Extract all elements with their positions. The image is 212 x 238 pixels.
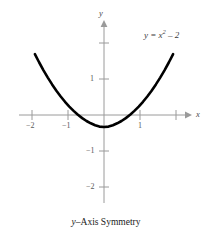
y-axis-label: y xyxy=(99,9,103,18)
x-tick-label-neg2: −2 xyxy=(26,122,35,130)
figure-caption: y–Axis Symmetry xyxy=(0,218,212,228)
x-axis-label: x xyxy=(196,110,200,119)
curve-equation-lead: y = x xyxy=(144,30,163,40)
caption-rest: –Axis Symmetry xyxy=(76,217,141,227)
y-tick-label-1: 1 xyxy=(90,75,94,83)
y-axis xyxy=(101,20,108,203)
figure-y-axis-symmetry: −2 −1 1 1 −1 −2 y x y = x2 – 2 y–Axis Sy… xyxy=(0,0,212,238)
curve-equation-label: y = x2 – 2 xyxy=(144,31,179,40)
x-tick-label-1: 1 xyxy=(138,122,142,130)
x-tick-label-neg1: −1 xyxy=(62,122,71,130)
curve-equation-tail: – 2 xyxy=(166,30,180,40)
y-tick-label-neg2: −2 xyxy=(86,183,95,191)
y-tick-label-neg1: −1 xyxy=(86,147,95,155)
x-axis xyxy=(19,112,192,119)
parabola-plot xyxy=(0,0,212,212)
